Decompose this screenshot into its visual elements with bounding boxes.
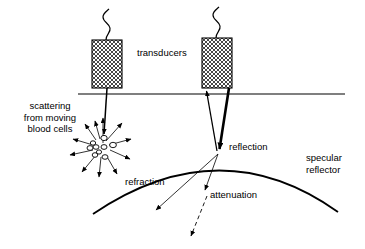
transducer-right-cable-icon	[213, 7, 220, 38]
label-scattering-line2: from moving	[24, 112, 76, 123]
blood-cell	[101, 135, 107, 140]
blood-cell	[87, 146, 93, 151]
blood-cell	[96, 150, 101, 154]
blood-cell	[110, 142, 117, 147]
label-specular-line2: reflector	[306, 164, 340, 175]
label-specular-reflector: specularreflector	[306, 152, 362, 175]
label-reflection: reflection	[229, 141, 268, 153]
blood-cell-cluster	[87, 135, 116, 159]
label-scattering: scatteringfrom movingblood cells	[8, 100, 92, 135]
incident-beam-thick	[220, 88, 230, 149]
blood-cell	[101, 145, 107, 150]
reflected-beam	[207, 91, 218, 151]
transducer-left-cable-icon	[103, 9, 110, 40]
label-scattering-line3: blood cells	[28, 123, 73, 134]
transducer-right-body	[202, 38, 232, 88]
refraction-ray	[156, 154, 218, 210]
transducer-right	[202, 7, 232, 88]
transducer-left	[92, 9, 122, 88]
label-refraction: refraction	[125, 176, 165, 188]
left-beam-into-blood	[104, 88, 107, 134]
label-transducers: transducers	[137, 47, 187, 59]
ultrasound-diagram: scatteringfrom movingblood cells transdu…	[0, 0, 365, 249]
label-specular-line1: specular	[306, 152, 342, 163]
blood-cell	[90, 141, 95, 145]
label-attenuation: attenuation	[210, 189, 257, 201]
blood-cell	[102, 155, 108, 160]
transducer-left-body	[92, 40, 122, 88]
label-scattering-line1: scattering	[29, 100, 70, 111]
